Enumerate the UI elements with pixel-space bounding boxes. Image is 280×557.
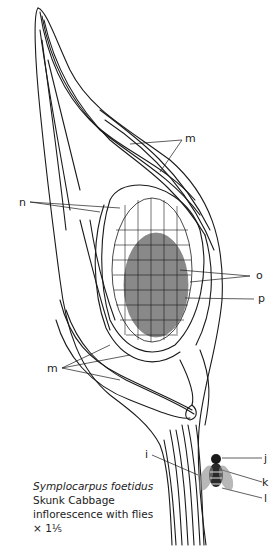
label-p: p [258, 293, 265, 304]
caption-magnification: × 1⅕ [33, 521, 153, 535]
caption-scientific-name: Symplocarpus foetidus [33, 479, 153, 493]
figure-caption: Symplocarpus foetidus Skunk Cabbage infl… [33, 479, 153, 535]
label-n: n [19, 197, 26, 208]
fly-drawing [196, 454, 236, 492]
caption-description: inflorescence with flies [33, 507, 153, 521]
label-i: i [145, 449, 148, 460]
caption-common-name: Skunk Cabbage [33, 493, 153, 507]
label-m-top: m [185, 133, 196, 144]
spathe-illustration [0, 0, 280, 557]
label-j: j [264, 453, 267, 464]
label-o: o [256, 270, 263, 281]
label-k: k [262, 477, 268, 488]
label-l: l [264, 493, 267, 504]
label-m-bottom: m [47, 363, 58, 374]
